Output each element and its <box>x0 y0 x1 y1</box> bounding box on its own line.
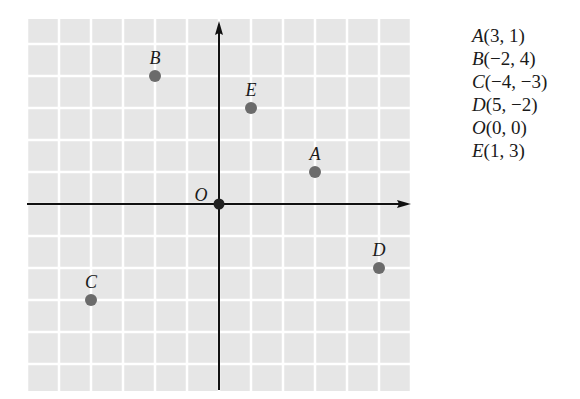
legend-item-a: A(3, 1) <box>472 24 547 47</box>
point-a <box>309 166 321 178</box>
legend-item-d: D(5, −2) <box>472 93 547 116</box>
legend-item-e: E(1, 3) <box>472 139 547 162</box>
legend-item-o: O(0, 0) <box>472 116 547 139</box>
point-label-o: O <box>195 185 208 205</box>
point-label-e: E <box>245 80 257 100</box>
point-label-b: B <box>150 48 161 68</box>
point-label-d: D <box>372 240 386 260</box>
point-o <box>214 199 225 210</box>
point-c <box>85 294 97 306</box>
point-e <box>245 102 257 114</box>
point-b <box>149 70 161 82</box>
point-label-c: C <box>85 272 98 292</box>
point-label-a: A <box>309 144 322 164</box>
legend-item-c: C(−4, −3) <box>472 70 547 93</box>
coordinates-legend: A(3, 1) B(−2, 4) C(−4, −3) D(5, −2) O(0,… <box>472 24 547 162</box>
legend-item-b: B(−2, 4) <box>472 47 547 70</box>
point-d <box>373 262 385 274</box>
